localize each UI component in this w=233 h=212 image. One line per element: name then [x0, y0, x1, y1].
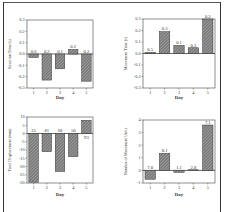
bar-day-4: [188, 170, 198, 171]
bar-value-label: 0.2: [191, 43, 197, 48]
x-axis-label: Day: [56, 192, 65, 197]
y-tick-label: 0.0: [19, 51, 24, 56]
chart-bottom-left: 1050-5-10-15-20-25-30125281360450593Tota…: [7, 114, 93, 197]
y-tick-label: -15: [19, 156, 25, 161]
y-tick-label: -20: [19, 164, 25, 169]
x-axis-label: Day: [56, 95, 65, 100]
y-tick-label: -0.2: [134, 74, 141, 79]
bar-day-5: [203, 125, 213, 170]
y-tick-label: 2: [138, 143, 140, 148]
bar-day-4: [68, 49, 78, 54]
y-tick-label: -30: [19, 180, 25, 185]
y-tick-label: 0: [22, 131, 24, 136]
x-tick-label: 4: [72, 90, 75, 95]
bar-day-5: [203, 19, 213, 54]
x-tick-label: 5: [207, 185, 209, 190]
bar-day-2: [159, 32, 169, 54]
bar-day-5: [82, 54, 92, 81]
y-tick-label: -25: [19, 172, 25, 177]
bar-value-label: 7.1: [205, 120, 211, 125]
y-tick-label: -10: [19, 147, 25, 152]
x-tick-label: 2: [164, 185, 166, 190]
bar-day-1: [29, 134, 39, 183]
bar-day-3: [55, 54, 65, 69]
x-tick-label: 2: [164, 90, 166, 95]
x-tick-label: 5: [85, 185, 87, 190]
y-tick-label: 0.0: [135, 51, 140, 56]
figure-canvas: 0.30.20.10.0-0.1-0.2-0.310.620.230.140.2…: [0, 0, 233, 212]
y-tick-label: 0.2: [19, 29, 24, 34]
y-tick-label: -0.1: [18, 63, 25, 68]
bar-day-3: [174, 45, 184, 53]
bar-value-label: 0.2: [70, 44, 76, 49]
y-axis-label: Movement Time (s): [123, 36, 128, 70]
x-tick-label: 1: [149, 90, 151, 95]
bar-value-label: 0.3: [162, 26, 168, 31]
bar-value-label: 50: [71, 128, 76, 133]
bar-day-5: [82, 120, 92, 133]
bar-day-1: [145, 170, 155, 179]
bar-value-label: 25: [31, 128, 36, 133]
y-tick-label: 0.1: [19, 40, 24, 45]
chart-bottom-right: 43210-117.028.131.142.857.1Number of Mov…: [123, 117, 215, 197]
x-tick-label: 1: [33, 185, 35, 190]
bar-value-label: 0.1: [57, 49, 63, 54]
y-axis-label: Number of Movement Units: [123, 127, 128, 175]
bar-day-4: [188, 48, 198, 54]
y-tick-label: 4: [138, 117, 141, 122]
chart-top-left: 0.30.20.10.0-0.1-0.2-0.310.620.230.140.2…: [7, 17, 93, 100]
bar-value-label: 60: [58, 128, 63, 133]
x-tick-label: 1: [33, 90, 35, 95]
y-tick-label: -0.2: [18, 74, 25, 79]
y-tick-label: 0.3: [135, 16, 140, 21]
y-tick-label: 5: [22, 123, 24, 128]
y-tick-label: 0.1: [135, 39, 140, 44]
x-tick-label: 2: [46, 185, 48, 190]
y-tick-label: -1: [137, 180, 141, 185]
x-tick-label: 3: [178, 185, 180, 190]
x-tick-label: 5: [85, 90, 87, 95]
bar-value-label: 8.1: [162, 148, 168, 153]
x-tick-label: 1: [149, 185, 151, 190]
bar-value-label: 1.1: [176, 165, 182, 170]
y-tick-label: -0.1: [134, 62, 141, 67]
y-tick-label: 0.2: [135, 28, 140, 33]
bar-value-label: 0.2: [44, 49, 50, 54]
bar-value-label: 7.0: [147, 165, 153, 170]
chart-top-right: 0.30.20.10.0-0.1-0.2-0.310.520.330.140.2…: [123, 14, 215, 100]
bar-day-2: [42, 134, 52, 152]
x-tick-label: 4: [192, 185, 195, 190]
bar-value-label: 0.3: [205, 14, 211, 19]
bar-day-1: [29, 54, 39, 57]
x-tick-label: 2: [46, 90, 48, 95]
bar-day-3: [55, 134, 65, 172]
y-axis-label: Total Displacement (mm): [7, 128, 12, 172]
x-tick-label: 5: [207, 90, 209, 95]
bar-value-label: 0.2: [84, 49, 90, 54]
y-tick-label: -5: [21, 139, 25, 144]
x-tick-label: 4: [72, 185, 75, 190]
x-tick-label: 4: [192, 90, 195, 95]
bar-value-label: 81: [45, 128, 50, 133]
x-axis-label: Day: [175, 95, 184, 100]
y-tick-label: 1: [138, 155, 140, 160]
y-tick-label: 10: [20, 114, 24, 119]
y-tick-label: -0.3: [18, 85, 25, 90]
y-tick-label: 0.3: [19, 17, 24, 22]
bar-day-3: [174, 170, 184, 172]
bar-value-label: 0.1: [176, 40, 182, 45]
bar-value-label: 0.6: [31, 49, 37, 54]
y-tick-label: 3: [138, 130, 140, 135]
bar-day-2: [42, 54, 52, 80]
bar-value-label: 2.8: [191, 165, 197, 170]
bar-value-label: 93: [84, 135, 89, 140]
bar-day-4: [68, 134, 78, 157]
bar-day-2: [159, 153, 169, 170]
bar-value-label: 0.5: [147, 47, 153, 52]
bar-day-1: [145, 52, 155, 53]
y-tick-label: 0: [138, 168, 140, 173]
x-tick-label: 3: [59, 185, 61, 190]
y-tick-label: -0.3: [134, 85, 141, 90]
x-axis-label: Day: [175, 192, 184, 197]
y-axis-label: Reaction Time (s): [7, 38, 12, 69]
